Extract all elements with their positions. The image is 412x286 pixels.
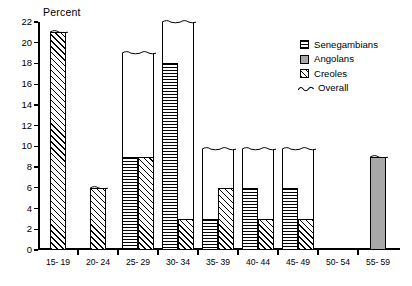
x-axis-tick xyxy=(357,250,358,255)
legend-item-label: Creoles xyxy=(314,69,347,79)
legend-item-label: Overall xyxy=(318,83,348,93)
bar-group xyxy=(78,22,118,250)
bar-group xyxy=(118,22,158,250)
y-axis-tick-label: 2 xyxy=(27,225,32,235)
senegambians-bar xyxy=(282,188,298,250)
senegambians-bar xyxy=(122,157,138,250)
x-axis-tick xyxy=(117,250,118,255)
bar-group xyxy=(158,22,198,250)
y-axis-tick-label: 16 xyxy=(21,79,32,89)
x-axis-tick-label: 35- 39 xyxy=(206,258,230,267)
creoles-bar xyxy=(298,219,314,250)
x-axis-tick-label: 20- 24 xyxy=(86,258,110,267)
x-axis-tick-label: 45- 49 xyxy=(286,258,310,267)
x-axis-tick xyxy=(157,250,158,255)
legend-item-label: Angolans xyxy=(314,54,354,64)
senegambians-bar xyxy=(242,188,258,250)
bar-group xyxy=(38,22,78,250)
y-axis-tick-label: 0 xyxy=(27,245,32,255)
legend-item-label: Senegambians xyxy=(314,40,378,50)
creoles-bar xyxy=(178,219,194,250)
creoles-bar xyxy=(50,32,66,250)
creoles-swatch-icon xyxy=(300,69,309,78)
y-axis-tick-label: 22 xyxy=(21,17,32,27)
y-axis-tick-label: 4 xyxy=(27,204,32,214)
x-axis-tick xyxy=(77,250,78,255)
y-axis-tick-label: 8 xyxy=(27,162,32,172)
y-axis-tick-label: 10 xyxy=(21,142,32,152)
chart-figure: Percent 0246810121416182022 15- 1920- 24… xyxy=(0,0,412,286)
x-axis-tick-label: 25- 29 xyxy=(126,258,150,267)
creoles-bar xyxy=(258,219,274,250)
senegambians-bar xyxy=(162,63,178,250)
x-axis-tick-label: 50- 54 xyxy=(326,258,350,267)
x-axis-tick-label: 55- 59 xyxy=(366,258,390,267)
y-axis-tick-label: 14 xyxy=(21,100,32,110)
overall-wave-swatch-icon xyxy=(298,84,312,93)
legend-item: Creoles xyxy=(300,67,378,80)
x-axis-tick-label: 30- 34 xyxy=(166,258,190,267)
angolans-bar xyxy=(370,157,386,250)
legend-item: Senegambians xyxy=(300,38,378,51)
y-axis-tick-label: 18 xyxy=(21,59,32,69)
y-axis-tick-label: 12 xyxy=(21,121,32,131)
y-axis-tick-label: 6 xyxy=(27,183,32,193)
x-axis-tick xyxy=(277,250,278,255)
y-axis-tick-label: 20 xyxy=(21,38,32,48)
x-axis-tick xyxy=(237,250,238,255)
x-axis-tick-label: 15- 19 xyxy=(46,258,70,267)
creoles-bar xyxy=(90,188,106,250)
creoles-bar xyxy=(138,157,154,250)
angolans-swatch-icon xyxy=(300,55,309,64)
x-axis-tick xyxy=(197,250,198,255)
bar-group xyxy=(238,22,278,250)
x-axis-tick xyxy=(317,250,318,255)
x-axis-tick-label: 40- 44 xyxy=(246,258,270,267)
y-axis-title: Percent xyxy=(43,6,81,18)
legend-item: Angolans xyxy=(300,53,378,66)
senegambians-swatch-icon xyxy=(300,40,309,49)
senegambians-bar xyxy=(202,219,218,250)
creoles-bar xyxy=(218,188,234,250)
legend-item: Overall xyxy=(300,82,378,95)
chart-legend: SenegambiansAngolansCreolesOverall xyxy=(300,38,378,96)
bar-group xyxy=(198,22,238,250)
